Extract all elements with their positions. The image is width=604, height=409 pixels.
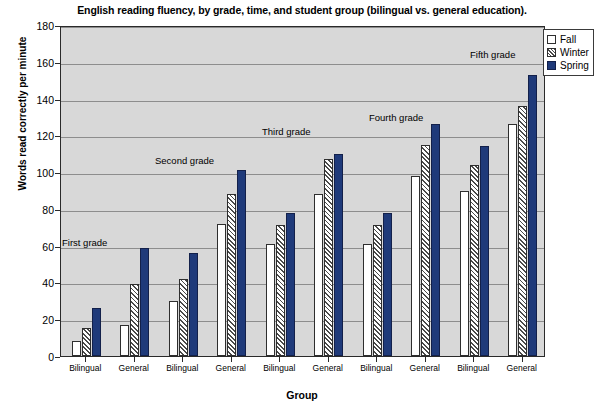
y-axis-label: Words read correctly per minute: [17, 14, 28, 214]
bar-spring: [431, 124, 440, 356]
x-group-label: Bilingual: [166, 363, 198, 373]
y-tick-mark: [55, 136, 60, 137]
bar-spring: [334, 154, 343, 356]
x-tick-mark: [279, 357, 280, 362]
bar-winter: [470, 165, 479, 356]
bar-winter: [373, 225, 382, 356]
legend-swatch-fall-icon: [547, 35, 556, 44]
x-group-label: Bilingual: [69, 363, 101, 373]
bar-spring: [189, 253, 198, 356]
bar-fall: [169, 301, 178, 356]
legend-item-fall[interactable]: Fall: [547, 33, 589, 46]
gridline: [61, 64, 544, 65]
gridline: [61, 101, 544, 102]
y-tick-mark: [55, 357, 60, 358]
x-axis-label: Group: [0, 389, 604, 401]
y-tick-mark: [55, 320, 60, 321]
y-tick-label: 0: [14, 352, 54, 362]
bar-fall: [217, 224, 226, 356]
x-group-label: General: [507, 363, 537, 373]
x-group-label: General: [410, 363, 440, 373]
legend-label-fall: Fall: [560, 35, 576, 45]
bar-spring: [237, 170, 246, 356]
gridline: [61, 137, 544, 138]
y-tick-mark: [55, 210, 60, 211]
bar-winter: [518, 106, 527, 356]
y-tick-mark: [55, 26, 60, 27]
x-tick-mark: [425, 357, 426, 362]
grade-annotation: Fourth grade: [369, 112, 423, 123]
bar-winter: [276, 225, 285, 356]
bar-fall: [120, 325, 129, 356]
bar-fall: [508, 124, 517, 356]
bar-winter: [82, 328, 91, 356]
bar-winter: [179, 279, 188, 356]
legend-swatch-spring-icon: [547, 61, 556, 70]
bar-winter: [130, 284, 139, 356]
chart-title: English reading fluency, by grade, time,…: [0, 4, 604, 16]
legend-item-spring[interactable]: Spring: [547, 59, 589, 72]
y-tick-mark: [55, 173, 60, 174]
bar-winter: [324, 159, 333, 356]
grade-annotation: First grade: [62, 237, 107, 248]
x-tick-mark: [376, 357, 377, 362]
x-group-label: Bilingual: [457, 363, 489, 373]
gridline: [61, 27, 544, 28]
bar-spring: [528, 75, 537, 356]
y-tick-label: 60: [14, 242, 54, 252]
x-tick-mark: [182, 357, 183, 362]
y-tick-mark: [55, 100, 60, 101]
x-tick-mark: [473, 357, 474, 362]
y-tick-label: 40: [14, 278, 54, 288]
x-group-label: General: [216, 363, 246, 373]
x-tick-mark: [134, 357, 135, 362]
plot-area: [60, 26, 545, 357]
bar-spring: [92, 308, 101, 356]
y-tick-mark: [55, 283, 60, 284]
legend-label-winter: Winter: [560, 48, 589, 58]
bar-fall: [363, 244, 372, 356]
legend-swatch-winter-icon: [547, 48, 556, 57]
x-tick-mark: [231, 357, 232, 362]
x-group-label: General: [313, 363, 343, 373]
bar-fall: [314, 194, 323, 356]
bar-fall: [411, 176, 420, 356]
bar-fall: [460, 191, 469, 357]
x-group-label: General: [119, 363, 149, 373]
x-tick-mark: [85, 357, 86, 362]
x-group-label: Bilingual: [360, 363, 392, 373]
bar-fall: [266, 244, 275, 356]
bar-spring: [286, 213, 295, 356]
x-group-label: Bilingual: [263, 363, 295, 373]
y-tick-mark: [55, 247, 60, 248]
grade-annotation: Third grade: [262, 126, 311, 137]
y-tick-mark: [55, 63, 60, 64]
bar-fall: [72, 341, 81, 356]
y-tick-label: 20: [14, 315, 54, 325]
legend: Fall Winter Spring: [543, 29, 594, 76]
x-tick-mark: [328, 357, 329, 362]
bar-spring: [480, 146, 489, 356]
bar-spring: [383, 213, 392, 356]
reading-fluency-chart: English reading fluency, by grade, time,…: [0, 0, 604, 409]
bar-spring: [140, 248, 149, 356]
x-tick-mark: [522, 357, 523, 362]
bar-winter: [421, 145, 430, 356]
grade-annotation: Fifth grade: [470, 49, 515, 60]
legend-label-spring: Spring: [560, 61, 589, 71]
bar-winter: [227, 194, 236, 356]
legend-item-winter[interactable]: Winter: [547, 46, 589, 59]
plot-inner: [61, 27, 544, 356]
grade-annotation: Second grade: [155, 155, 214, 166]
